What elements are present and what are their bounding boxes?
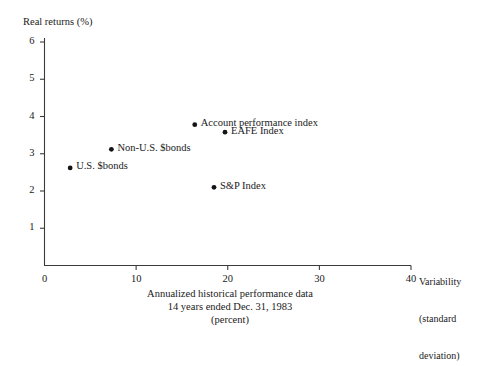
caption-line-3: (percent) bbox=[0, 313, 460, 326]
x-axis-tick-label: 40 bbox=[402, 273, 420, 285]
x-axis-title-line-3: deviation) bbox=[419, 350, 461, 362]
x-axis-tick-label: 0 bbox=[36, 273, 54, 285]
x-axis-tick-label: 20 bbox=[219, 273, 237, 285]
y-axis-title: Real returns (%) bbox=[23, 16, 92, 28]
y-axis-tick-label: 5 bbox=[21, 72, 35, 84]
y-axis-tick-label: 6 bbox=[21, 35, 35, 47]
data-point-marker bbox=[192, 122, 197, 127]
y-axis-tick-label: 4 bbox=[21, 110, 35, 122]
x-axis-tick-label: 10 bbox=[127, 273, 145, 285]
chart-caption: Annualized historical performance data 1… bbox=[0, 287, 460, 326]
y-axis-tick-marks bbox=[40, 42, 45, 228]
data-point-marker bbox=[109, 147, 114, 152]
y-axis-tick-label: 3 bbox=[21, 147, 35, 159]
data-point-label: S&P Index bbox=[220, 180, 266, 192]
data-point-label: EAFE Index bbox=[231, 125, 284, 137]
caption-line-1: Annualized historical performance data bbox=[0, 287, 460, 300]
caption-line-2: 14 years ended Dec. 31, 1983 bbox=[0, 300, 460, 313]
x-axis-tick-label: 30 bbox=[310, 273, 328, 285]
data-point-marker bbox=[223, 130, 228, 135]
data-point-marker bbox=[212, 185, 217, 190]
y-axis-tick-label: 2 bbox=[21, 184, 35, 196]
data-point-label: Non-U.S. $bonds bbox=[117, 142, 190, 154]
x-axis-tick-marks bbox=[136, 266, 411, 271]
y-axis-tick-label: 1 bbox=[21, 221, 35, 233]
axis-lines bbox=[44, 38, 411, 266]
data-point-label: U.S. $bonds bbox=[76, 160, 128, 172]
data-point-marker bbox=[68, 166, 73, 171]
data-point-markers bbox=[68, 122, 228, 189]
